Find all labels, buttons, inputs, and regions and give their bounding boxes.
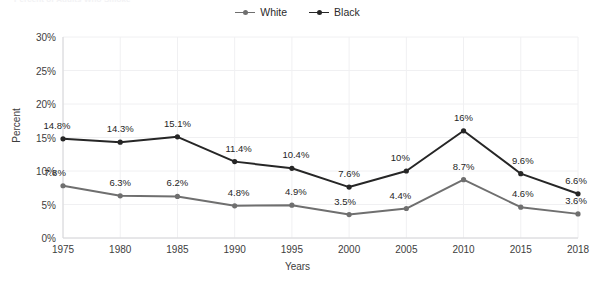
data-label-white: 3.5% — [334, 195, 356, 206]
y-axis-tick-label: 5% — [14, 199, 56, 210]
x-axis-tick-label: 1995 — [281, 244, 303, 255]
y-axis-tick-label: 30% — [14, 32, 56, 43]
data-label-black: 16% — [454, 111, 473, 122]
data-label-black: 10.4% — [282, 149, 309, 160]
data-label-white: 3.6% — [565, 194, 587, 205]
y-axis-tick-label: 25% — [14, 65, 56, 76]
x-axis-tick-label: 2018 — [567, 244, 589, 255]
x-axis-tick-label: 1990 — [224, 244, 246, 255]
data-label-white: 4.8% — [228, 186, 250, 197]
data-label-black: 10% — [391, 152, 410, 163]
data-label-white: 6.2% — [167, 177, 189, 188]
x-axis-tick-label: 1985 — [166, 244, 188, 255]
data-label-white: 4.9% — [285, 186, 307, 197]
data-label-white: 8.7% — [453, 160, 475, 171]
data-label-black: 9.6% — [512, 154, 534, 165]
x-axis-tick-label: 1975 — [52, 244, 74, 255]
data-label-white: 4.6% — [512, 188, 534, 199]
x-axis-tick-label: 2015 — [510, 244, 532, 255]
gridlines — [63, 37, 578, 238]
data-label-white: 4.4% — [390, 189, 412, 200]
data-label-white: 6.3% — [109, 176, 131, 187]
x-axis-tick-label: 2010 — [452, 244, 474, 255]
x-axis-tick-label: 2005 — [395, 244, 417, 255]
line-chart: Percent of Adults Who Smoke White Black … — [0, 0, 595, 282]
x-axis-tick-label: 2000 — [338, 244, 360, 255]
y-axis-tick-label: 0% — [14, 233, 56, 244]
x-axis-title: Years — [0, 261, 595, 272]
data-label-white: 7.8% — [44, 166, 66, 177]
data-label-black: 11.4% — [226, 142, 252, 153]
series-layer — [60, 128, 580, 217]
y-axis-title: Percent — [11, 96, 22, 156]
data-label-black: 7.6% — [338, 168, 360, 179]
data-label-black: 15.1% — [164, 117, 191, 128]
data-label-black: 14.8% — [44, 119, 71, 130]
data-label-black: 6.6% — [565, 174, 587, 185]
x-axis-tick-label: 1980 — [109, 244, 131, 255]
data-label-black: 14.3% — [107, 123, 134, 134]
plot-area — [0, 0, 595, 282]
